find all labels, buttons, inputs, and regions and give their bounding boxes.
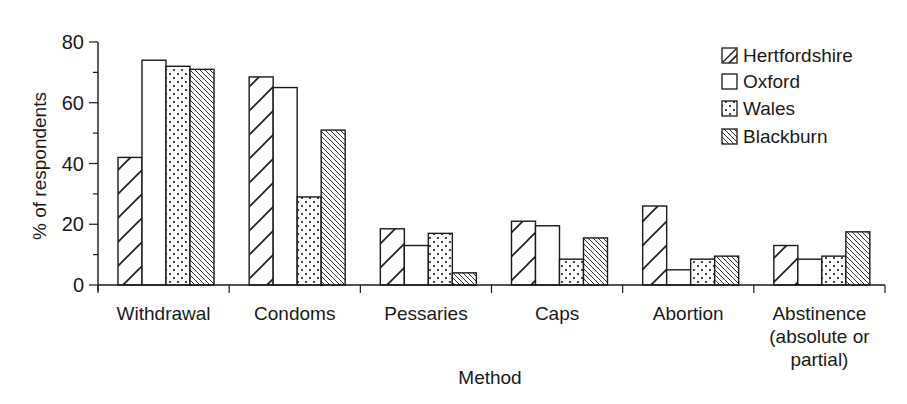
x-axis-title: Method <box>458 367 521 388</box>
bar-blackburn <box>584 238 608 285</box>
y-tick-label: 60 <box>62 92 84 114</box>
bar-oxford <box>142 60 166 285</box>
y-axis-title: % of respondents <box>29 92 50 240</box>
bar-blackburn <box>452 273 476 285</box>
bar-hertfordshire <box>643 206 667 285</box>
bar-hertfordshire <box>118 157 142 285</box>
bar-oxford <box>404 246 428 285</box>
legend-swatch <box>722 101 737 116</box>
legend-item-wales: Wales <box>722 98 795 119</box>
bar-blackburn <box>715 256 739 285</box>
bar-group <box>380 229 476 285</box>
bar-hertfordshire <box>512 221 536 285</box>
x-tick-label: Abortion <box>653 303 724 324</box>
legend-swatch <box>722 74 737 89</box>
bar-wales <box>822 256 846 285</box>
bar-blackburn <box>190 69 214 285</box>
bar-oxford <box>798 259 822 285</box>
bar-group <box>643 206 739 285</box>
x-tick-label: Pessaries <box>384 303 467 324</box>
x-tick-label: (absolute or <box>769 326 870 347</box>
y-tick-label: 0 <box>73 274 84 296</box>
bar-wales <box>428 233 452 285</box>
legend-item-blackburn: Blackburn <box>722 126 828 147</box>
bar-group <box>118 60 214 285</box>
y-axis: 020406080 <box>62 31 98 296</box>
bar-oxford <box>667 270 691 285</box>
bar-wales <box>691 259 715 285</box>
legend-label: Oxford <box>743 71 800 92</box>
legend-item-hertfordshire: Hertfordshire <box>722 45 853 66</box>
legend-label: Wales <box>743 98 795 119</box>
y-axis-label: % of respondents <box>29 92 50 240</box>
x-axis-label: Method <box>458 367 521 388</box>
x-tick-label: Caps <box>535 303 579 324</box>
legend: HertfordshireOxfordWalesBlackburn <box>722 45 853 147</box>
bar-hertfordshire <box>380 229 404 285</box>
bar-group <box>774 232 870 285</box>
x-axis: WithdrawalCondomsPessariesCapsAbortionAb… <box>98 285 885 370</box>
y-tick-label: 80 <box>62 31 84 53</box>
bar-hertfordshire <box>774 246 798 285</box>
x-tick-label: partial) <box>790 349 848 370</box>
legend-swatch <box>722 129 737 144</box>
y-tick-label: 40 <box>62 153 84 175</box>
legend-item-oxford: Oxford <box>722 71 800 92</box>
x-tick-label: Withdrawal <box>117 303 211 324</box>
legend-label: Hertfordshire <box>743 45 853 66</box>
bar-wales <box>560 259 584 285</box>
legend-label: Blackburn <box>743 126 828 147</box>
bar-wales <box>297 197 321 285</box>
y-tick-label: 20 <box>62 213 84 235</box>
bar-blackburn <box>846 232 870 285</box>
bar-oxford <box>273 88 297 285</box>
x-tick-label: Condoms <box>254 303 335 324</box>
bar-wales <box>166 66 190 285</box>
bar-group <box>512 221 608 285</box>
bar-group <box>249 77 345 285</box>
bars <box>118 60 870 285</box>
bar-chart: % of respondents 020406080 WithdrawalCon… <box>0 0 907 404</box>
x-tick-label: Abstinence <box>772 303 866 324</box>
bar-oxford <box>536 226 560 285</box>
bar-hertfordshire <box>249 77 273 285</box>
bar-blackburn <box>321 130 345 285</box>
